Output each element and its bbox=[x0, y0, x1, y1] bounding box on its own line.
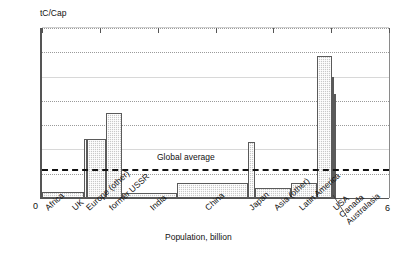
x-tick-5 bbox=[331, 28, 332, 33]
global-average-label: Global average bbox=[157, 152, 215, 162]
gridline-3 bbox=[42, 125, 389, 126]
x-tick-1 bbox=[100, 28, 101, 33]
x-tick-2 bbox=[158, 28, 159, 33]
x-tick-label-6: 6 bbox=[385, 203, 390, 213]
x-axis-title: Population, billion bbox=[165, 232, 232, 242]
y-axis-title: tC/Cap bbox=[40, 8, 66, 18]
gridline-4 bbox=[42, 101, 389, 102]
chart-figure: tC/Cap 7 6 5 4 3 2 1 0 Global average bbox=[0, 0, 408, 265]
gridline-6 bbox=[42, 52, 389, 53]
plot-right-border bbox=[389, 28, 390, 198]
x-tick-label-0: 0 bbox=[33, 201, 38, 211]
x-tick-4 bbox=[273, 28, 274, 33]
x-tick-0 bbox=[42, 28, 43, 33]
global-average-line bbox=[42, 169, 389, 171]
gridline-5 bbox=[42, 77, 389, 78]
x-tick-6 bbox=[389, 28, 390, 33]
x-tick-3 bbox=[216, 28, 217, 33]
